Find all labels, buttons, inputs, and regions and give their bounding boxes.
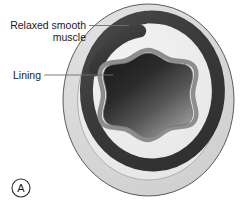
label-relaxed-smooth-muscle-line1: Relaxed smooth xyxy=(10,19,86,31)
anatomical-figure: Relaxed smooth muscle Lining A xyxy=(0,0,245,205)
label-relaxed-smooth-muscle-line2: muscle xyxy=(53,31,86,43)
label-lining: Lining xyxy=(13,69,41,81)
panel-marker-letter: A xyxy=(17,182,25,194)
lumen xyxy=(103,53,192,138)
panel-marker-a: A xyxy=(12,179,30,197)
vessel-cross-section-diagram: Relaxed smooth muscle Lining A xyxy=(0,0,245,205)
